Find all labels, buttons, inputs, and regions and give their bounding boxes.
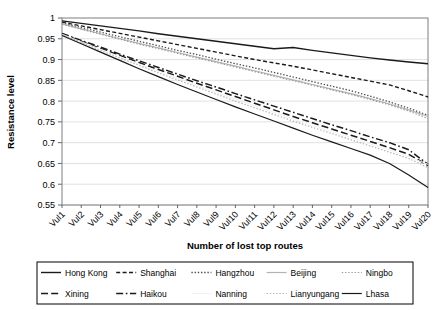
series-group [62, 21, 428, 188]
x-tick-label: Vul3 [86, 209, 106, 229]
legend-label-haikou[interactable]: Haikou [140, 289, 167, 299]
y-tick-label: 0.95 [37, 34, 55, 44]
x-tick-label: Vul7 [163, 209, 183, 229]
x-axis-title: Number of lost top routes [187, 240, 303, 251]
x-tick-label: Vul5 [124, 209, 144, 229]
legend-label-lhasa[interactable]: Lhasa [366, 289, 389, 299]
plot-area-border [62, 18, 428, 205]
legend-label-lianyungang[interactable]: Lianyungang [291, 289, 340, 299]
x-tick-label: Vul6 [144, 209, 164, 229]
x-tick-label: Vul8 [182, 209, 202, 229]
x-tick-label: Vul4 [105, 209, 125, 229]
x-tick-label: Vul18 [371, 209, 394, 232]
x-tick-label: Vul14 [294, 209, 317, 232]
x-tick-label: Vul2 [67, 209, 87, 229]
y-tick-label: 0.8 [42, 97, 55, 107]
y-tick-label: 0.6 [42, 180, 55, 190]
y-tick-label: 0.75 [37, 117, 55, 127]
x-tick-label: Vul15 [313, 209, 336, 232]
legend-label-shanghai[interactable]: Shanghai [140, 268, 176, 278]
x-tick-label: Vul19 [391, 209, 414, 232]
legend-label-xining[interactable]: Xining [65, 289, 89, 299]
x-tick-label: Vul13 [275, 209, 298, 232]
x-tick-label: Vul20 [410, 209, 433, 232]
y-tick-label: 0.7 [42, 138, 55, 148]
y-tick-label: 0.9 [42, 55, 55, 65]
legend-label-nanning[interactable]: Nanning [215, 289, 247, 299]
resistance-level-line-chart: 10.950.90.850.80.750.70.650.60.55Vul1Vul… [0, 0, 446, 310]
x-tick-label: Vul1 [47, 209, 67, 229]
x-axis: Vul1Vul2Vul3Vul4Vul5Vul6Vul7Vul8Vul9Vul1… [47, 205, 433, 232]
y-tick-label: 0.85 [37, 76, 55, 86]
y-tick-label: 0.65 [37, 159, 55, 169]
legend-label-hong-kong[interactable]: Hong Kong [65, 268, 108, 278]
legend-label-ningbo[interactable]: Ningbo [366, 268, 393, 278]
y-tick-label: 1 [50, 13, 55, 23]
x-tick-label: Vul17 [352, 209, 375, 232]
legend: Hong KongShanghaiHangzhouBeijingNingboXi… [37, 262, 413, 304]
x-tick-label: Vul10 [217, 209, 240, 232]
y-axis-title: Resistance level [5, 75, 16, 149]
x-tick-label: Vul16 [333, 209, 356, 232]
legend-label-hangzhou[interactable]: Hangzhou [215, 268, 254, 278]
x-tick-label: Vul12 [256, 209, 279, 232]
chart-canvas: 10.950.90.850.80.750.70.650.60.55Vul1Vul… [0, 0, 446, 310]
x-tick-label: Vul11 [237, 209, 260, 232]
y-tick-label: 0.55 [37, 200, 55, 210]
legend-label-beijing[interactable]: Beijing [291, 268, 317, 278]
